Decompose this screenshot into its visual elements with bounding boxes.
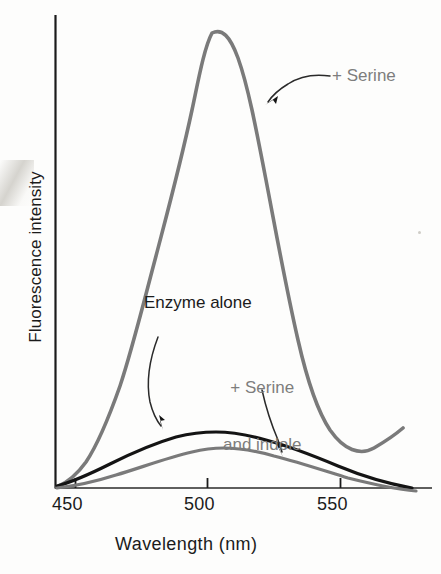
x-axis-label: Wavelength (nm) (115, 534, 257, 554)
annotation-plus-serine-and-indole-line2: and indole (223, 435, 301, 454)
arrow-line-enzyme-alone (148, 337, 161, 426)
plot-canvas (0, 0, 441, 574)
y-axis-label: Fluorescence intensity (26, 171, 46, 342)
annotation-plus-serine-and-indole: + Serine and indole (223, 340, 301, 492)
x-tick-label-450: 450 (52, 494, 83, 514)
fluorescence-spectrum-figure: Fluorescence intensity Wavelength (nm) 4… (0, 0, 441, 574)
arrow-head-enzyme-alone (159, 415, 165, 430)
y-axis-label-container: Fluorescence intensity (23, 147, 49, 367)
annotation-plus-serine-and-indole-line1: + Serine (223, 378, 301, 397)
annotation-plus-serine: + Serine (332, 66, 396, 85)
x-tick-label-500: 500 (184, 494, 215, 514)
x-tick-label-550: 550 (317, 494, 348, 514)
annotation-enzyme-alone: Enzyme alone (144, 293, 252, 312)
